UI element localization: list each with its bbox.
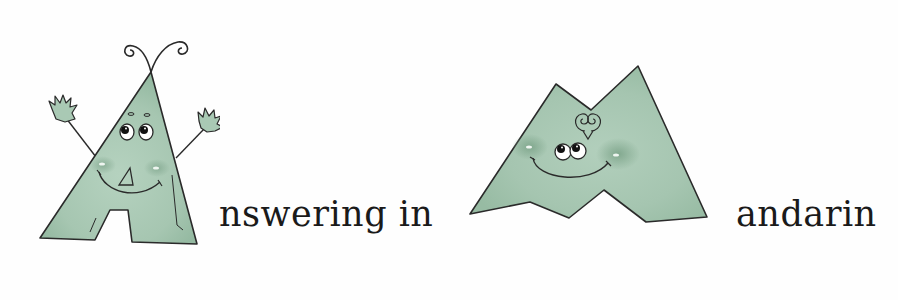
letter-a-character-icon bbox=[30, 25, 220, 250]
answering-in-text: nswering in bbox=[219, 197, 433, 232]
andarin-text: andarin bbox=[736, 197, 877, 232]
letter-m-character-icon bbox=[460, 60, 710, 230]
title-banner: nswering in bbox=[0, 0, 898, 300]
